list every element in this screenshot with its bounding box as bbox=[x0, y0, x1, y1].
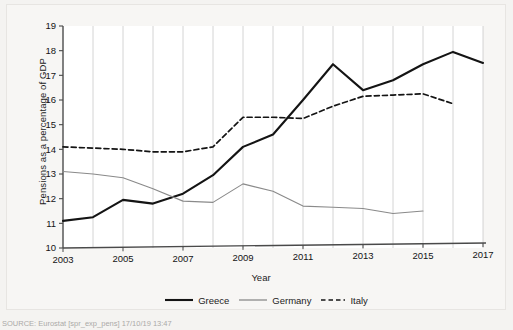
x-tick-label-2011: 2011 bbox=[293, 251, 313, 262]
legend-item-italy: Italy bbox=[320, 295, 367, 306]
x-tick-label-2013: 2013 bbox=[352, 250, 373, 261]
legend-label-germany: Germany bbox=[272, 295, 311, 306]
legend-swatch-germany-icon bbox=[238, 295, 268, 305]
y-axis-ticks: 10111213141516171819 bbox=[45, 20, 63, 253]
legend-label-greece: Greece bbox=[198, 295, 229, 306]
x-tick-label-2007: 2007 bbox=[172, 253, 193, 264]
chart-legend: Greece Germany Italy bbox=[136, 292, 396, 308]
legend-item-germany: Germany bbox=[238, 295, 311, 306]
legend-item-greece: Greece bbox=[164, 295, 229, 306]
x-tick-label-2003: 2003 bbox=[52, 254, 73, 265]
figure-panel: 10111213141516171819 2003200520072009201… bbox=[6, 4, 506, 310]
axes bbox=[63, 26, 486, 248]
legend-swatch-greece-icon bbox=[164, 295, 194, 305]
x-axis-title: Year bbox=[186, 272, 336, 283]
x-tick-label-2009: 2009 bbox=[232, 252, 253, 263]
x-tick-label-2015: 2015 bbox=[412, 250, 433, 261]
y-axis-title: Pensions as a percentage of GDP bbox=[37, 27, 48, 237]
legend-label-italy: Italy bbox=[350, 295, 367, 306]
legend-swatch-italy-icon bbox=[320, 295, 346, 305]
screenshot-page: 10111213141516171819 2003200520072009201… bbox=[0, 0, 513, 330]
series-line-italy bbox=[63, 94, 453, 152]
x-tick-label-2005: 2005 bbox=[112, 253, 133, 264]
y-tick-label-11: 11 bbox=[46, 218, 56, 229]
y-tick-label-10: 10 bbox=[45, 242, 56, 253]
gridlines bbox=[63, 26, 483, 248]
line-chart: 10111213141516171819 2003200520072009201… bbox=[6, 4, 506, 310]
x-tick-label-2017: 2017 bbox=[472, 249, 493, 260]
source-note: SOURCE: Eurostat [spr_exp_pens] 17/10/19… bbox=[2, 319, 510, 330]
